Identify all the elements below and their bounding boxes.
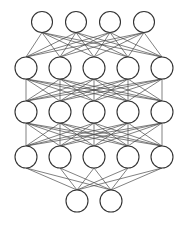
neuron-node [83,101,105,123]
neuron-node [15,57,37,79]
neuron-node [117,57,139,79]
hidden-layer-2 [15,101,173,123]
neuron-node [49,101,71,123]
neuron-node [66,12,87,33]
neuron-node [83,57,105,79]
neuron-node [15,146,37,168]
hidden-layer-3 [15,146,173,168]
neuron-node [49,57,71,79]
neural-network-diagram [0,0,185,226]
neuron-node [49,146,71,168]
neuron-node [15,101,37,123]
neuron-node [100,190,122,212]
neuron-node [151,101,173,123]
neuron-node [83,146,105,168]
output-layer [66,190,122,212]
hidden-layer-1 [15,57,173,79]
neuron-node [117,101,139,123]
neurons [15,12,173,213]
connection-edge [144,33,162,58]
neuron-node [151,146,173,168]
neuron-node [32,12,53,33]
neuron-node [134,12,155,33]
neuron-node [66,190,88,212]
input-layer [32,12,155,33]
connection-edge [26,33,144,58]
neuron-node [117,146,139,168]
neuron-node [151,57,173,79]
neuron-node [100,12,121,33]
